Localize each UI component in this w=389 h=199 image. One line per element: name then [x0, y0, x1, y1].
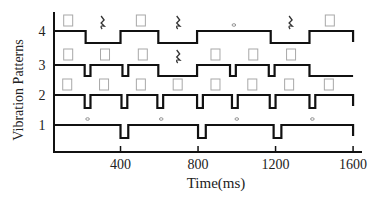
x-tick-label: 1200: [262, 157, 290, 172]
vibration-pattern-timing-chart: 40080012001600 1234 Time(ms) Vibration P…: [0, 0, 389, 199]
waveform-pattern-2: [55, 95, 353, 108]
quarter-note-box-icon: [138, 49, 147, 60]
whole-note-icon: [235, 118, 239, 121]
quarter-note-box-icon: [101, 49, 110, 60]
x-tick-label: 400: [110, 157, 131, 172]
x-tick-label: 1600: [339, 157, 367, 172]
y-axis-label: Vibration Patterns: [11, 39, 26, 140]
quarter-note-box-icon: [100, 79, 109, 90]
quarter-note-box-icon: [211, 79, 220, 90]
quarter-note-box-icon: [249, 49, 258, 60]
quarter-note-box-icon: [287, 49, 296, 60]
quarter-note-box-icon: [64, 49, 73, 60]
quarter-note-box-icon: [63, 79, 72, 90]
quarter-note-box-icon: [136, 79, 145, 90]
quarter-note-box-icon: [324, 79, 333, 90]
whole-note-icon: [159, 118, 163, 121]
quarter-rest-icon: [289, 16, 292, 29]
y-tick-label: 2: [39, 88, 46, 103]
waveform-pattern-1: [55, 125, 353, 138]
quarter-note-box-icon: [173, 79, 182, 90]
whole-note-icon: [86, 118, 90, 121]
quarter-note-box-icon: [325, 15, 334, 26]
whole-note-icon: [232, 24, 236, 27]
quarter-rest-icon: [177, 16, 180, 29]
quarter-rest-icon: [177, 50, 180, 63]
quarter-note-box-icon: [136, 15, 145, 26]
y-tick-label: 3: [39, 58, 46, 73]
y-tick-label: 1: [39, 118, 46, 133]
quarter-note-box-icon: [248, 79, 257, 90]
waveform-pattern-4: [55, 31, 353, 43]
x-axis-ticks: 40080012001600: [110, 146, 367, 172]
x-tick-label: 800: [188, 157, 209, 172]
x-axis-label: Time(ms): [187, 175, 246, 192]
y-tick-label: 4: [39, 24, 46, 39]
quarter-rest-icon: [101, 16, 104, 29]
quarter-note-box-icon: [285, 79, 294, 90]
whole-note-icon: [311, 118, 315, 121]
waveform-pattern-3: [55, 65, 353, 76]
y-axis-ticks: 1234: [39, 24, 46, 133]
quarter-note-box-icon: [64, 15, 73, 26]
quarter-note-box-icon: [211, 49, 220, 60]
